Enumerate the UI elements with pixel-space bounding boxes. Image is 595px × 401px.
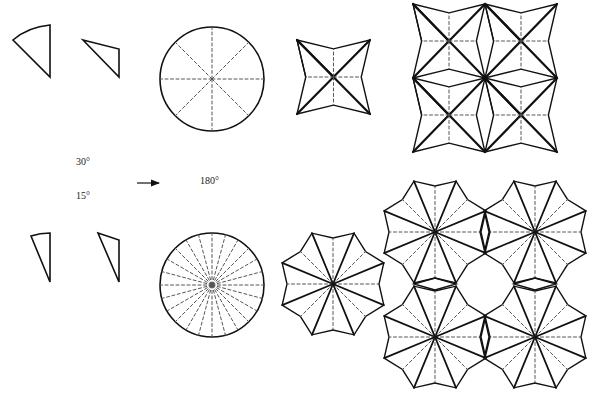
sector-30-triangle (83, 40, 119, 77)
sector-15-triangle (98, 233, 119, 282)
angle-label-30: 30° (76, 156, 90, 167)
four-point-star (297, 40, 370, 114)
circle-24-divisions (160, 233, 264, 337)
four-point-star-tiling (413, 4, 557, 152)
angle-label-15: 15° (76, 190, 90, 201)
eight-point-star (282, 233, 384, 335)
eight-point-star-tiling (384, 181, 586, 388)
sector-30-arc (13, 25, 50, 77)
sector-15-arc (31, 233, 50, 282)
circle-8-divisions (160, 27, 264, 131)
rotation-label: 180° (200, 175, 219, 186)
construction-diagram: 30° 15° 180° (0, 0, 595, 401)
